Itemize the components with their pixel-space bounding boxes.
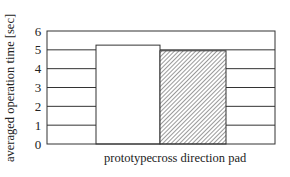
y-tick-label: 3 bbox=[35, 80, 42, 95]
y-axis-label: averaged operation time [sec] bbox=[3, 14, 17, 162]
y-tick-label: 6 bbox=[35, 24, 42, 39]
y-axis-ticks: 0123456 bbox=[35, 24, 42, 152]
bar-prototype bbox=[96, 45, 160, 144]
bar-cross-direction-pad bbox=[160, 51, 226, 144]
y-tick-label: 4 bbox=[35, 61, 42, 76]
x-category-label: prototype bbox=[104, 151, 152, 165]
bars bbox=[96, 45, 226, 144]
y-tick-label: 0 bbox=[35, 137, 42, 152]
y-tick-label: 2 bbox=[35, 99, 42, 114]
bar-chart: 0123456 prototypecross direction pad ave… bbox=[0, 0, 290, 177]
x-axis-categories: prototypecross direction pad bbox=[104, 151, 247, 165]
y-tick-label: 5 bbox=[35, 42, 42, 57]
x-category-label: cross direction pad bbox=[152, 151, 247, 165]
y-tick-label: 1 bbox=[35, 118, 42, 133]
